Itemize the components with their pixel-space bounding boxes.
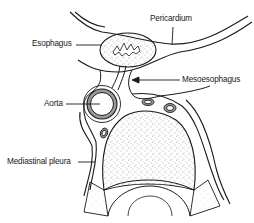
esophagus-shape [100, 33, 156, 67]
anatomy-diagram [0, 0, 254, 223]
label-esophagus: Esophagus [32, 40, 72, 48]
label-mediastinal-pleura: Mediastinal pleura [7, 158, 71, 166]
vertebral-body [103, 111, 196, 216]
label-aorta: Aorta [44, 100, 63, 108]
label-mesoesophagus: Mesoesophagus [182, 76, 240, 84]
label-pericardium: Pericardium [150, 15, 192, 23]
